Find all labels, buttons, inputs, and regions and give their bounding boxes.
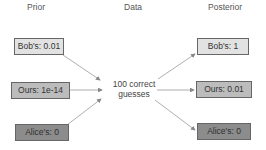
data-label-line2: guesses bbox=[104, 89, 164, 99]
arrow-alice-prior-to-data bbox=[67, 99, 101, 125]
data-label-line1: 100 correct bbox=[104, 79, 164, 89]
arrow-data-to-bob-posterior bbox=[158, 54, 195, 79]
prior-bob-box: Bob's: 0.01 bbox=[14, 38, 64, 55]
arrow-bob-prior-to-data bbox=[63, 55, 100, 80]
prior-alice-box: Alice's: 0 bbox=[15, 124, 69, 141]
posterior-alice-box: Alice's: 0 bbox=[197, 123, 251, 140]
posterior-bob-box: Bob's: 1 bbox=[197, 38, 249, 55]
arrow-data-to-alice-posterior bbox=[155, 100, 195, 130]
column-title-data: Data bbox=[103, 2, 163, 12]
posterior-ours-box: Ours: 0.01 bbox=[196, 81, 252, 98]
prior-ours-box: Ours: 1e-14 bbox=[11, 82, 70, 99]
column-title-prior: Prior bbox=[6, 2, 66, 12]
column-title-posterior: Posterior bbox=[195, 2, 255, 12]
data-label: 100 correct guesses bbox=[104, 79, 164, 99]
